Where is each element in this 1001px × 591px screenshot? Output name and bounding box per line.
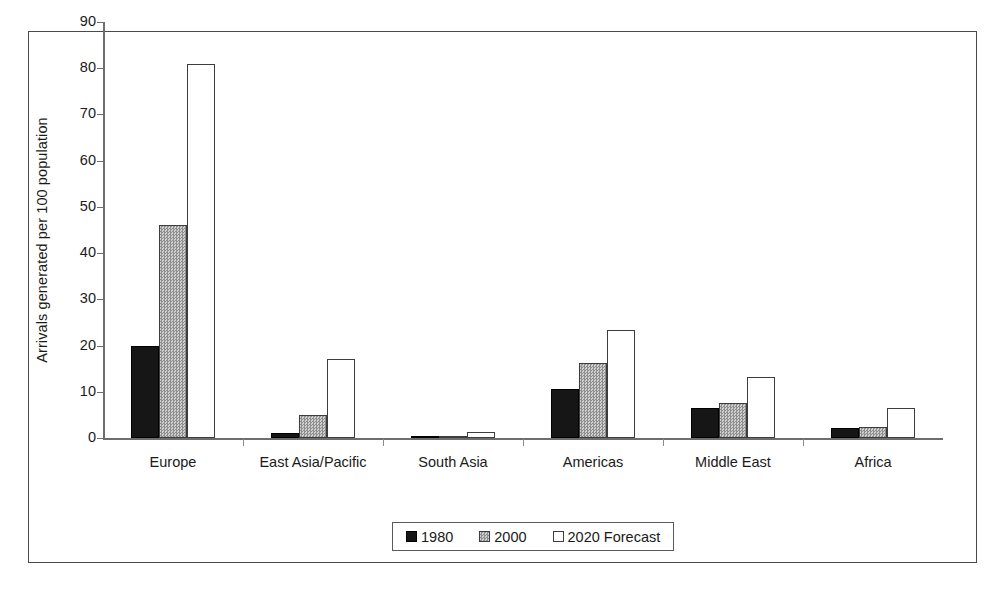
x-tick-mark (243, 439, 244, 446)
x-axis-label: Americas (563, 454, 623, 470)
y-tick-mark (97, 68, 103, 69)
y-tick-mark (97, 22, 103, 23)
x-axis-label: South Asia (418, 454, 487, 470)
bar-1980 (271, 433, 299, 438)
y-tick-mark (97, 207, 103, 208)
y-tick-mark (97, 114, 103, 115)
y-tick-mark (97, 346, 103, 347)
y-tick-label: 50 (80, 198, 96, 214)
bar-2000 (719, 403, 747, 438)
x-tick-mark (803, 439, 804, 446)
y-tick-label: 90 (80, 13, 96, 29)
y-tick-label: 0 (88, 429, 96, 445)
bar-2020-forecast (187, 64, 215, 438)
bar-1980 (411, 436, 439, 438)
bar-2020-forecast (887, 408, 915, 438)
y-tick-mark (97, 299, 103, 300)
y-tick-label: 60 (80, 152, 96, 168)
y-tick-label: 70 (80, 105, 96, 121)
x-tick-mark (383, 439, 384, 446)
bar-1980 (831, 428, 859, 438)
bar-1980 (551, 389, 579, 438)
x-axis-label: East Asia/Pacific (259, 454, 366, 470)
y-tick-label: 10 (80, 383, 96, 399)
y-axis-title: Arrivals generated per 100 population (34, 20, 56, 460)
y-tick-mark (97, 161, 103, 162)
legend-label: 2020 Forecast (568, 529, 661, 545)
x-axis-label: Africa (854, 454, 891, 470)
plot-area: 0102030405060708090 EuropeEast Asia/Paci… (103, 22, 943, 462)
bar-2020-forecast (467, 432, 495, 438)
legend-swatch-icon (479, 531, 490, 542)
y-tick-mark (97, 438, 103, 439)
legend-item: 2020 Forecast (553, 529, 661, 545)
y-tick-label: 40 (80, 244, 96, 260)
bar-2020-forecast (747, 377, 775, 438)
y-axis-line (103, 22, 105, 439)
legend-swatch-icon (553, 531, 564, 542)
bar-2000 (859, 427, 887, 438)
y-tick-mark (97, 392, 103, 393)
x-tick-mark (523, 439, 524, 446)
legend-label: 1980 (421, 529, 453, 545)
bar-2020-forecast (327, 359, 355, 438)
y-tick-mark (97, 253, 103, 254)
bar-2020-forecast (607, 330, 635, 438)
chart-legend: 198020002020 Forecast (392, 522, 674, 551)
legend-item: 1980 (406, 529, 453, 545)
y-tick-label: 30 (80, 290, 96, 306)
bar-2000 (299, 415, 327, 438)
legend-swatch-icon (406, 531, 417, 542)
y-tick-label: 20 (80, 337, 96, 353)
bar-1980 (131, 346, 159, 438)
legend-label: 2000 (494, 529, 526, 545)
x-tick-mark (663, 439, 664, 446)
x-axis-label: Europe (150, 454, 197, 470)
legend-item: 2000 (479, 529, 526, 545)
x-axis-label: Middle East (695, 454, 771, 470)
y-tick-label: 80 (80, 59, 96, 75)
bar-2000 (159, 225, 187, 438)
bar-2000 (579, 363, 607, 438)
bar-2000 (439, 436, 467, 438)
bar-1980 (691, 408, 719, 438)
